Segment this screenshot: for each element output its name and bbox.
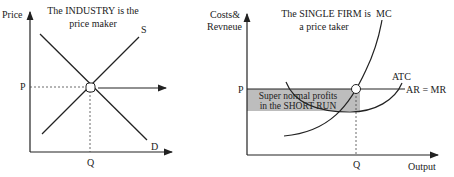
profit-label-line2: in the SHORT RUN (260, 101, 337, 111)
profit-label-line1: Super normal profits (259, 91, 338, 101)
ar-mr-label: AR = MR (406, 84, 446, 95)
y-axis-label-line1: Costs& (210, 9, 240, 20)
demand-label: D (151, 141, 158, 152)
title-line2: a price taker (299, 21, 349, 32)
title-line1: The INDUSTRY is the (47, 5, 139, 16)
industry-diagram: Price The INDUSTRY is the price maker P … (2, 5, 172, 168)
equilibrium-marker (352, 85, 361, 94)
y-axis-label-line2: Revneue (207, 21, 243, 32)
mc-curve (284, 20, 382, 136)
y-axis-label: Price (2, 9, 23, 20)
price-label: P (20, 81, 26, 92)
title-line1: The SINGLE FIRM is (281, 8, 371, 19)
quantity-label: Q (353, 159, 361, 170)
title-line2: price maker (69, 18, 117, 29)
perfect-competition-diagram: Price The INDUSTRY is the price maker P … (0, 0, 454, 177)
x-axis-label: Output (408, 161, 436, 172)
equilibrium-marker (86, 83, 95, 92)
price-label: P (238, 84, 244, 95)
quantity-label: Q (87, 157, 95, 168)
supply-label: S (141, 24, 147, 35)
mc-label: MC (376, 8, 392, 19)
atc-label: ATC (392, 71, 411, 82)
firm-diagram: Costs& Revneue The SINGLE FIRM is a pric… (207, 8, 446, 172)
